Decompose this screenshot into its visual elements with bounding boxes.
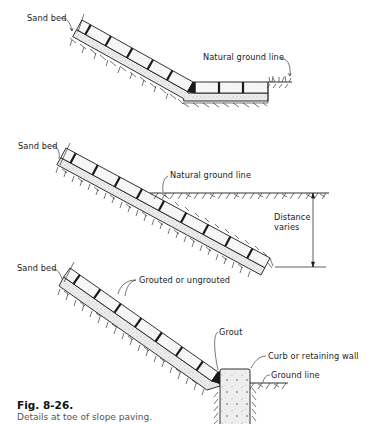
label-sand-bed-2: Sand bed — [18, 142, 57, 150]
label-natural-ground-line-2: Natural ground line — [170, 171, 251, 179]
paving-blocks-slope — [77, 20, 193, 92]
label-sand-bed-1: Sand bed — [27, 14, 66, 22]
paving-blocks-flat — [195, 82, 268, 93]
sand-bed-slope — [59, 277, 220, 390]
label-varies: varies — [274, 223, 299, 231]
label-ground-line: Ground line — [271, 371, 320, 379]
label-grouted-or-ungrouted: Grouted or ungrouted — [139, 276, 230, 284]
figure-caption: Details at toe of slope paving. — [17, 412, 152, 422]
figure-number: Fig. 8-26. — [17, 399, 73, 411]
label-sand-bed-3: Sand bed — [17, 264, 56, 272]
curb-retaining-wall — [220, 369, 250, 424]
label-natural-ground-line-1: Natural ground line — [203, 53, 284, 61]
label-grout: Grout — [219, 328, 242, 336]
label-curb-or-retaining-wall: Curb or retaining wall — [268, 352, 359, 360]
detail-2 — [52, 143, 329, 277]
label-distance: Distance — [274, 213, 311, 221]
detail-3 — [52, 262, 288, 424]
paving-blocks-slope — [61, 148, 270, 268]
